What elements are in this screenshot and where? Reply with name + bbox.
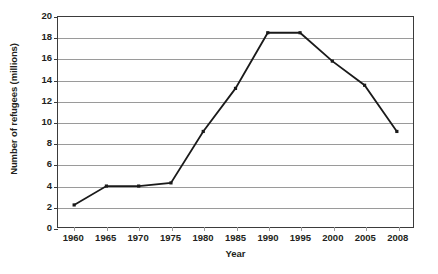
y-axis-title: Number of refugees (millions): [7, 0, 21, 224]
x-tick-mark: [301, 227, 302, 231]
x-tick-label: 1980: [192, 232, 213, 243]
y-tick-label: 6: [28, 159, 52, 169]
x-tick-label: 1965: [95, 232, 116, 243]
x-tick-label: 1960: [63, 232, 84, 243]
y-tick-label: 20: [28, 11, 52, 21]
x-tick-label: 1995: [290, 232, 311, 243]
x-tick-mark: [334, 227, 335, 231]
x-tick-label: 2005: [355, 232, 376, 243]
x-tick-mark: [237, 227, 238, 231]
data-point-marker: [266, 31, 269, 34]
y-tick-label: 2: [28, 202, 52, 212]
x-tick-label: 2000: [322, 232, 343, 243]
y-tick-label: 4: [28, 181, 52, 191]
data-point-marker: [363, 84, 366, 87]
data-point-marker: [137, 184, 140, 187]
data-point-marker: [395, 130, 398, 133]
x-tick-mark: [139, 227, 140, 231]
x-tick-mark: [399, 227, 400, 231]
series-polyline: [74, 33, 397, 205]
x-axis-tick-labels: 1960196519701975198019851990199520002005…: [0, 232, 438, 246]
series-line-number-of-refugees: [58, 17, 413, 227]
y-tick-label: 14: [28, 75, 52, 85]
data-point-marker: [73, 203, 76, 206]
x-tick-mark: [107, 227, 108, 231]
y-tick-label: 12: [28, 96, 52, 106]
x-tick-mark: [172, 227, 173, 231]
y-tick-label: 16: [28, 53, 52, 63]
data-point-marker: [105, 184, 108, 187]
data-point-marker: [234, 87, 237, 90]
data-point-marker: [202, 130, 205, 133]
x-tick-mark: [269, 227, 270, 231]
x-tick-mark: [204, 227, 205, 231]
x-tick-mark: [74, 227, 75, 231]
plot-area: [57, 16, 414, 228]
y-tick-label: 18: [28, 32, 52, 42]
data-point-marker: [331, 60, 334, 63]
caption-clipped: [0, 268, 438, 274]
refugees-line-chart: Number of refugees (millions) 0246810121…: [0, 0, 438, 274]
x-tick-label: 2008: [387, 232, 408, 243]
data-point-marker: [298, 31, 301, 34]
y-tick-label: 10: [28, 117, 52, 127]
x-tick-label: 1970: [128, 232, 149, 243]
x-tick-label: 1990: [257, 232, 278, 243]
x-axis-title: Year: [57, 248, 414, 259]
data-point-marker: [169, 181, 172, 184]
y-tick-mark: [54, 229, 58, 230]
y-tick-label: 8: [28, 138, 52, 148]
x-tick-mark: [366, 227, 367, 231]
x-tick-label: 1985: [225, 232, 246, 243]
x-tick-label: 1975: [160, 232, 181, 243]
